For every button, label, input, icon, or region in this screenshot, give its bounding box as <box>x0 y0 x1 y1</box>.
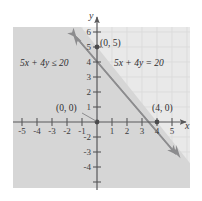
x-tick-label-1: 1 <box>106 126 118 136</box>
y-axis-label: y <box>89 10 93 21</box>
y-tick-label-6: 6 <box>79 27 91 37</box>
y-tick-label--4: -4 <box>75 162 91 172</box>
point-0-5 <box>95 45 100 50</box>
x-tick-label--2: -2 <box>60 126 74 136</box>
y-tick-label--2: -2 <box>75 132 91 142</box>
x-tick-label-5: 5 <box>166 126 178 136</box>
x-tick-label--3: -3 <box>45 126 59 136</box>
y-tick-label-2: 2 <box>79 87 91 97</box>
x-tick-label--5: -5 <box>15 126 29 136</box>
inequality-label: 5x + 4y ≤ 20 <box>20 58 69 68</box>
y-tick-label-5: 5 <box>79 42 91 52</box>
x-tick-label--4: -4 <box>30 126 44 136</box>
point-label-0-5: (0, 5) <box>100 38 121 48</box>
y-tick-label--3: -3 <box>75 147 91 157</box>
x-tick-label-4: 4 <box>151 126 163 136</box>
graph-canvas <box>0 0 202 201</box>
y-tick-label-4: 4 <box>79 57 91 67</box>
y-tick-label-3: 3 <box>79 72 91 82</box>
x-tick-label-2: 2 <box>121 126 133 136</box>
inequality-graph-figure: x y -5 -4 -3 -2 -1 1 2 3 4 5 6 5 4 3 2 1… <box>0 0 202 201</box>
y-tick-label-1: 1 <box>79 102 91 112</box>
x-tick-label-3: 3 <box>136 126 148 136</box>
equation-label: 5x + 4y = 20 <box>114 58 164 68</box>
x-axis-label: x <box>185 120 189 131</box>
point-4-0 <box>155 120 160 125</box>
point-label-0-0: (0, 0) <box>56 103 77 113</box>
point-label-4-0: (4, 0) <box>152 103 173 113</box>
